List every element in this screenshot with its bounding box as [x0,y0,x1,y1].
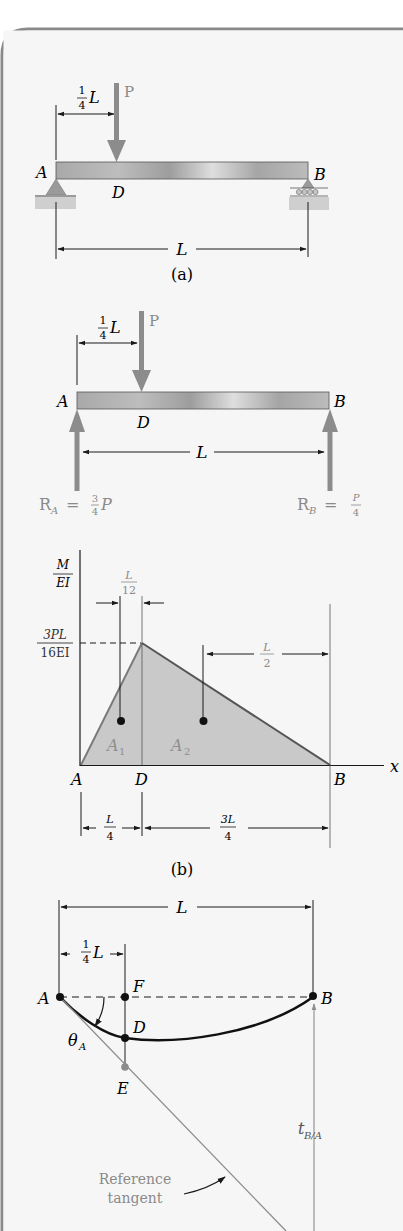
svg-text:16EI: 16EI [41,646,70,660]
svg-text:4: 4 [353,507,359,518]
reaction-label-A: R A = 3 4 P [39,493,112,517]
svg-text:2: 2 [264,657,271,670]
load-label-P: P [149,312,159,330]
svg-text:4: 4 [100,329,107,342]
svg-text:P: P [100,495,112,514]
svg-text:4: 4 [92,506,98,517]
svg-text:1: 1 [83,938,90,951]
svg-text:3: 3 [92,493,98,504]
point-A-label: A [55,392,69,411]
svg-text:3L: 3L [221,813,235,826]
beam-deflection-figure: 1 4 L P A B D [0,0,403,1231]
svg-text:4: 4 [79,99,86,112]
svg-text:12: 12 [122,584,136,597]
svg-text:tangent: tangent [108,1190,163,1206]
svg-text:=: = [324,495,337,514]
caption-a: (a) [171,265,193,284]
svg-text:4: 4 [83,953,90,966]
point-A-label: A [69,770,83,789]
x-axis-label: x [390,757,399,776]
svg-text:M: M [56,558,70,572]
span-label: L [175,239,187,259]
svg-text:A: A [105,736,119,755]
point-B-label: B [333,392,346,411]
point-B-label: B [333,770,346,789]
svg-text:2: 2 [184,746,190,757]
svg-text:EI: EI [55,576,70,590]
span-label: L [195,442,207,462]
point-D-label: D [132,1018,146,1037]
beam-b [77,392,329,409]
svg-text:L: L [105,813,113,826]
svg-text:P: P [352,492,360,503]
point-B-label: B [320,989,333,1008]
svg-text:Reference: Reference [99,1171,171,1187]
svg-text:B/A: B/A [303,1130,322,1141]
svg-text:3PL: 3PL [43,628,67,642]
point-F-label: F [132,977,145,996]
svg-text:L: L [262,641,270,654]
svg-text:1: 1 [79,84,86,97]
span-label: L [175,897,187,917]
point-B-label: B [313,165,326,184]
svg-text:L: L [109,318,121,337]
svg-text:θ: θ [68,1031,78,1050]
point-A-label: A [34,163,48,182]
svg-text:1: 1 [100,314,107,327]
svg-text:4: 4 [225,830,232,843]
svg-text:L: L [92,943,104,962]
svg-text:4: 4 [107,830,114,843]
point-D-label: D [136,413,150,432]
svg-text:1: 1 [119,746,125,757]
point-E-label: E [116,1079,129,1098]
svg-text:=: = [66,495,79,514]
load-label-P: P [124,83,134,101]
point-D-label: D [134,770,148,789]
svg-text:A: A [78,1041,86,1052]
svg-text:A: A [169,736,183,755]
caption-b: (b) [171,860,194,879]
beam-a [56,162,308,179]
svg-text:L: L [88,88,100,107]
svg-text:B: B [308,505,316,516]
svg-text:A: A [50,505,58,516]
point-D-label: D [111,183,125,202]
point-A-label: A [36,989,50,1008]
offset-label: 1 4 L [81,938,104,966]
svg-text:L: L [124,569,132,582]
